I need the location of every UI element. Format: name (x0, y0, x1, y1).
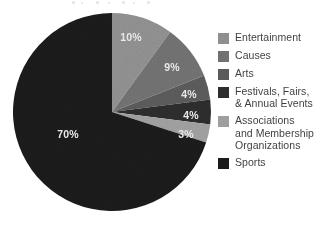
legend-item-label: Associations and Membership Organization… (235, 114, 314, 151)
pie-slice-value-label: 3% (178, 128, 194, 140)
pie-slice-group (13, 13, 211, 211)
pie-chart-plot-area: 10%9%4%4%3%70% (0, 0, 225, 225)
pie-chart-svg: 10%9%4%4%3%70% (0, 0, 225, 225)
pie-slice-value-label: 4% (181, 88, 197, 100)
legend-item-label: Arts (235, 67, 254, 79)
legend-color-swatch (218, 87, 229, 98)
legend-item[interactable]: Festivals, Fairs, & Annual Events (218, 85, 332, 109)
legend-item-label: Causes (235, 49, 271, 61)
legend-item-label: Sports (235, 156, 266, 168)
legend-item[interactable]: Causes (218, 49, 332, 62)
legend-color-swatch (218, 51, 229, 62)
pie-slice-value-label: 4% (183, 109, 199, 121)
chart-legend: EntertainmentCausesArtsFestivals, Fairs,… (218, 31, 332, 174)
legend-item[interactable]: Sports (218, 156, 332, 169)
legend-color-swatch (218, 33, 229, 44)
pie-slice-value-label: 70% (57, 128, 79, 140)
legend-item[interactable]: Arts (218, 67, 332, 80)
legend-color-swatch (218, 158, 229, 169)
pie-slice-value-label: 9% (164, 61, 180, 73)
legend-color-swatch (218, 69, 229, 80)
legend-item-label: Festivals, Fairs, & Annual Events (235, 85, 313, 109)
pie-slice-value-label: 10% (120, 31, 142, 43)
pie-chart-figure: 10%9%4%4%3%70% EntertainmentCausesArtsFe… (0, 0, 332, 225)
legend-item[interactable]: Associations and Membership Organization… (218, 114, 332, 151)
legend-color-swatch (218, 116, 229, 127)
legend-item[interactable]: Entertainment (218, 31, 332, 44)
legend-item-label: Entertainment (235, 31, 301, 43)
